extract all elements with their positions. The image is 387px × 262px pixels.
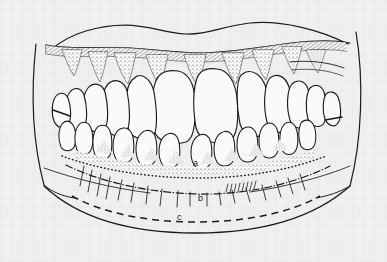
figure-root: a b c bbox=[0, 0, 387, 262]
lower-tooth-left-3 bbox=[93, 125, 112, 159]
dentition-line-drawing bbox=[0, 0, 387, 262]
upper-tooth-central-incisor-left bbox=[152, 71, 195, 144]
upper-gum-scallop-left-2 bbox=[88, 52, 108, 82]
left-corner-fold bbox=[44, 185, 74, 198]
upper-gum-scallop-left-1 bbox=[62, 50, 82, 76]
right-commissure-line bbox=[350, 32, 361, 186]
right-corner-fold bbox=[316, 186, 350, 198]
lower-tooth-left-2 bbox=[75, 122, 93, 154]
label-c: c bbox=[177, 213, 182, 222]
lower-tooth-left-1 bbox=[59, 121, 76, 151]
label-a: a bbox=[193, 159, 198, 168]
upper-tooth-central-incisor-right bbox=[194, 69, 238, 143]
upper-tooth-molar-right bbox=[323, 92, 340, 126]
line-c-dashed bbox=[72, 196, 320, 222]
lower-tooth-right-3 bbox=[237, 127, 258, 162]
lower-lip-upper-arc-left bbox=[44, 168, 150, 193]
left-commissure-line bbox=[33, 44, 44, 185]
upper-tooth-lateral-incisor-left bbox=[126, 76, 157, 139]
lower-tooth-right-6 bbox=[299, 120, 316, 150]
label-b: b bbox=[198, 194, 203, 203]
line-b-hatch-cluster bbox=[226, 181, 256, 193]
lower-lip-outer-line bbox=[44, 186, 350, 233]
lower-tooth-left-5 bbox=[136, 130, 157, 166]
lower-tooth-left-4 bbox=[113, 128, 134, 163]
